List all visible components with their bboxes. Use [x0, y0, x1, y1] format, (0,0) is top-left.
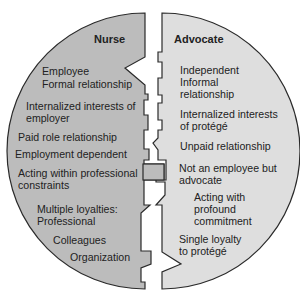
advocate-item-single-loyalty: Single loyalty [179, 233, 241, 246]
advocate-item-independent: Independent [180, 64, 239, 77]
advocate-item-not-employee: Not an employee but [179, 162, 277, 175]
nurse-item-professional: Professional [37, 215, 95, 228]
advocate-item-of-protege: of protégé [180, 120, 228, 133]
nurse-item-employer: employer [26, 112, 70, 125]
advocate-item-relationship: relationship [180, 88, 234, 101]
nurse-item-multiple-loyalties: Multiple loyalties: [37, 203, 118, 216]
seam-connector-tab [143, 164, 164, 180]
advocate-item-unpaid: Unpaid relationship [180, 140, 271, 153]
advocate-item-commitment: commitment [194, 215, 252, 228]
nurse-item-constraints: constraints [18, 179, 69, 192]
nurse-item-employee: Employee [42, 65, 89, 78]
advocate-item-acting-with: Acting with [194, 191, 245, 204]
nurse-item-colleagues: Colleagues [53, 234, 106, 247]
nurse-item-employment-dependent: Employment dependent [15, 148, 127, 161]
nurse-item-acting-within: Acting within professional [18, 167, 138, 180]
nurse-item-organization: Organization [70, 251, 130, 264]
advocate-item-advocate: advocate [179, 174, 222, 187]
advocate-item-informal: Informal [180, 76, 218, 89]
nurse-item-formal-relationship: Formal relationship [42, 78, 132, 91]
advocate-item-profound: profound [194, 203, 236, 216]
advocate-title: Advocate [174, 33, 224, 46]
advocate-item-internalized-interests: Internalized interests [180, 108, 278, 121]
nurse-item-paid-role: Paid role relationship [18, 131, 117, 144]
nurse-item-internalized-interests: Internalized interests of [26, 100, 136, 113]
advocate-item-to-protege: to protégé [179, 245, 227, 258]
nurse-title: Nurse [94, 33, 125, 46]
